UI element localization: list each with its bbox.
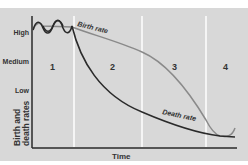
death-rate-curve: [33, 20, 235, 137]
svg-text:death rates: death rates: [21, 100, 31, 146]
y-axis-title: Birth and death rates: [12, 100, 31, 146]
x-axis-title: Time: [112, 152, 131, 161]
stage-2-label: 2: [110, 62, 115, 72]
y-level-low: Low: [15, 87, 30, 94]
stage-4-label: 4: [223, 62, 228, 72]
demographic-transition-diagram: High Medium Low Birth and death rates 1 …: [0, 0, 248, 165]
birth-rate-curve: [33, 23, 235, 136]
y-level-medium: Medium: [3, 58, 29, 65]
stage-3-label: 3: [172, 62, 177, 72]
death-rate-label: Death rate: [162, 108, 197, 122]
birth-rate-label: Birth rate: [77, 20, 109, 34]
stage-1-label: 1: [50, 62, 55, 72]
y-level-high: High: [13, 29, 29, 37]
